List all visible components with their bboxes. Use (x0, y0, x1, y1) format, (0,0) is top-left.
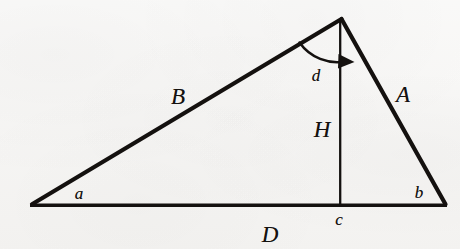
label-side-d: D (262, 223, 279, 246)
angle-d-arrowhead (338, 54, 355, 69)
label-angle-b: b (415, 184, 424, 201)
triangle-diagram-figure: A B D H a b c d (0, 0, 460, 249)
label-side-b: B (171, 85, 185, 108)
side-a-line (342, 19, 446, 204)
label-vertex-c: c (335, 211, 343, 228)
label-altitude-h: H (314, 118, 331, 141)
label-side-a: A (396, 83, 410, 106)
label-angle-a: a (75, 185, 84, 202)
side-b-line (32, 19, 342, 204)
label-angle-d: d (312, 67, 321, 84)
triangle-diagram-svg (0, 0, 460, 249)
